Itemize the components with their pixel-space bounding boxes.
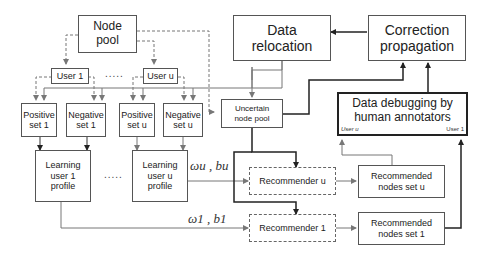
uncertain-node-pool-label: Uncertain node pool — [234, 104, 269, 122]
node-pool-label: Node pool — [93, 20, 122, 48]
params-u-label: ωu , bu — [190, 158, 228, 174]
positive-set-u-box: Positive set u — [119, 103, 155, 137]
data-debugging-box: Data debugging by human annotators User … — [337, 92, 468, 136]
recommended-set-1-box: Recommended nodes set 1 — [358, 212, 445, 245]
learning-user-u-label: Learning user u profile — [142, 160, 177, 191]
learning-user-u-box: Learning user u profile — [132, 150, 188, 202]
debugging-user-1-label: User 1 — [446, 126, 464, 133]
recommender-1-label: Recommender 1 — [259, 223, 326, 233]
recommended-set-u-box: Recommended nodes set u — [358, 165, 445, 198]
node-pool-box: Node pool — [78, 15, 137, 53]
data-relocation-box: Data relocation — [233, 15, 331, 61]
negative-set-1-box: Negative set 1 — [66, 103, 106, 137]
recommender-u-box: Recommender u — [249, 167, 336, 195]
negative-set-1-label: Negative set 1 — [68, 110, 104, 131]
positive-set-1-box: Positive set 1 — [21, 103, 57, 137]
positive-set-u-label: Positive set u — [121, 110, 153, 131]
negative-set-u-box: Negative set u — [163, 103, 203, 137]
correction-propagation-label: Correction propagation — [380, 22, 454, 54]
user-u-label: User u — [147, 71, 174, 81]
uncertain-node-pool-box: Uncertain node pool — [221, 99, 283, 128]
data-relocation-label: Data relocation — [252, 22, 313, 54]
recommended-set-u-label: Recommended nodes set u — [371, 171, 432, 192]
recommender-u-label: Recommender u — [259, 176, 326, 186]
positive-set-1-label: Positive set 1 — [23, 110, 55, 131]
negative-set-u-label: Negative set u — [165, 110, 201, 131]
recommended-set-1-label: Recommended nodes set 1 — [371, 218, 432, 239]
debugging-user-u-label: User u — [341, 126, 359, 133]
user-u-box: User u — [143, 68, 178, 84]
user-1-box: User 1 — [51, 68, 89, 84]
params-1-label: ω1 , b1 — [188, 211, 226, 227]
profiles-ellipsis: ..... — [104, 169, 123, 180]
learning-user-1-label: Learning user 1 profile — [45, 160, 80, 191]
users-ellipsis: ..... — [105, 68, 124, 79]
learning-user-1-box: Learning user 1 profile — [35, 150, 91, 202]
correction-propagation-box: Correction propagation — [368, 15, 466, 61]
recommender-1-box: Recommender 1 — [249, 214, 336, 242]
user-1-label: User 1 — [57, 71, 84, 81]
data-debugging-label: Data debugging by human annotators — [352, 97, 453, 125]
